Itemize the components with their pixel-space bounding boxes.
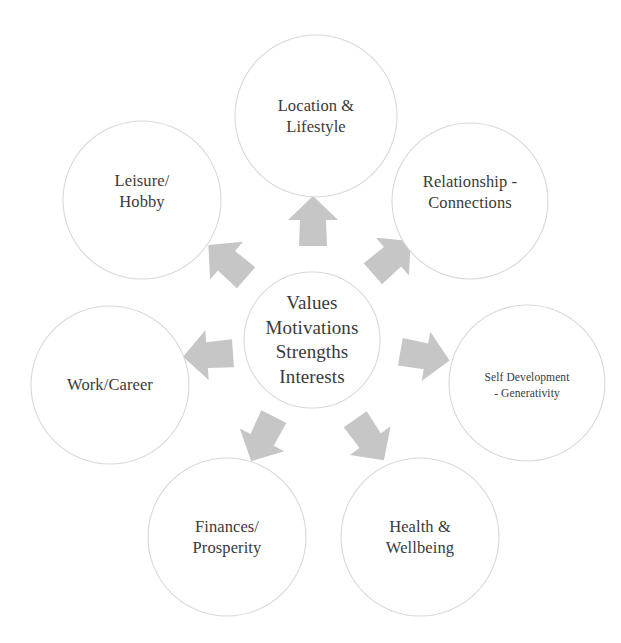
arrow-to-location-lifestyle [288,196,338,246]
arrow-to-work-career [181,328,234,381]
node-self-development-generativity[interactable] [449,305,605,461]
hub-node[interactable] [244,272,380,408]
node-finances-prosperity[interactable] [148,458,306,616]
arrow-to-self-development [396,327,454,385]
node-health-wellbeing[interactable] [341,458,499,616]
node-leisure-hobby[interactable] [63,121,221,279]
diagram-canvas: Location & LifestyleRelationship - Conne… [0,0,621,643]
node-work-career[interactable] [31,306,189,464]
node-relationship-connections[interactable] [392,123,548,279]
node-location-lifestyle[interactable] [235,35,397,197]
